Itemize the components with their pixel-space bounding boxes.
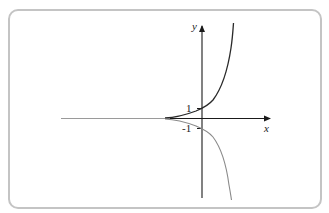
- y-axis-label: y: [191, 20, 197, 32]
- exponential-graph: y x 1 -1: [0, 0, 329, 213]
- x-axis-label: x: [263, 122, 269, 134]
- curve-neg-exp: [165, 119, 232, 200]
- tick-label-neg-1: -1: [182, 122, 191, 134]
- tick-label-1: 1: [186, 102, 192, 114]
- curve-exp: [165, 23, 234, 118]
